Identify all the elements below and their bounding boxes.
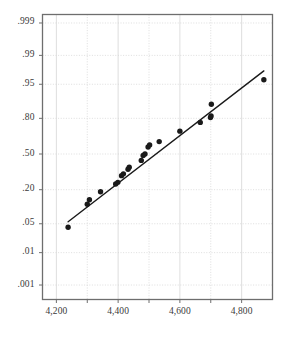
scatter-point bbox=[198, 120, 203, 125]
scatter-point bbox=[139, 158, 144, 163]
scatter-point bbox=[87, 197, 92, 202]
y-axis-tick-label: .80 bbox=[3, 112, 35, 122]
x-axis-tick-label: 4,400 bbox=[95, 306, 141, 316]
scatter-point bbox=[65, 225, 70, 230]
scatter-point bbox=[177, 128, 182, 133]
scatter-point bbox=[209, 101, 214, 106]
y-axis-tick-label: .95 bbox=[3, 78, 35, 88]
y-axis-tick-label: .01 bbox=[3, 246, 35, 256]
scatter-point bbox=[127, 164, 132, 169]
normal-probability-plot-figure: .001.01.05.20.50.80.95.99.999 4,2004,400… bbox=[0, 0, 287, 337]
y-axis-tick-label: .05 bbox=[3, 217, 35, 227]
scatter-point bbox=[157, 139, 162, 144]
y-axis-tick-label: .999 bbox=[3, 16, 35, 26]
scatter-point bbox=[147, 142, 152, 147]
y-axis-tick-label: .99 bbox=[3, 49, 35, 59]
scatter-point bbox=[142, 151, 147, 156]
scatter-point bbox=[115, 180, 120, 185]
x-axis-tick-label: 4,200 bbox=[33, 306, 79, 316]
y-axis-tick-label: .50 bbox=[3, 148, 35, 158]
scatter-point bbox=[261, 77, 266, 82]
y-axis-tick-label: .20 bbox=[3, 183, 35, 193]
scatter-point bbox=[121, 171, 126, 176]
scatter-point bbox=[98, 189, 103, 194]
x-axis-tick-label: 4,800 bbox=[219, 306, 265, 316]
plot-canvas bbox=[0, 0, 287, 337]
y-axis-tick-label: .001 bbox=[3, 279, 35, 289]
scatter-point bbox=[208, 113, 213, 118]
x-axis-tick-label: 4,600 bbox=[157, 306, 203, 316]
